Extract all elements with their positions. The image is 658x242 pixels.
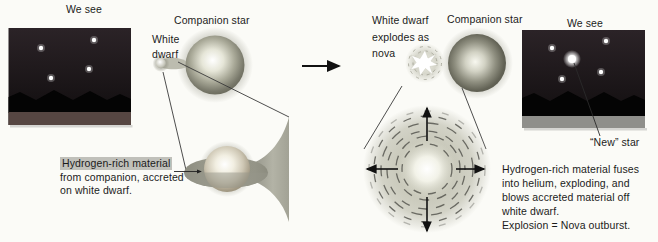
nova-caption-equation: Explosion = Nova outburst. — [502, 218, 654, 232]
we-see-label-left: We see — [53, 3, 115, 17]
companion-star-label-right: Companion star — [447, 13, 523, 27]
companion-star-label-left: Companion star — [174, 14, 250, 28]
caption-rest: from companion, accreted on white dwarf. — [60, 171, 184, 197]
we-see-label-right: We see — [558, 17, 612, 31]
new-star-label: “New” star — [590, 136, 639, 150]
nova-figure: We see Companion star White dwarf Hydrog… — [0, 0, 658, 242]
nova-explosion-zoom — [363, 105, 491, 233]
ground-strip — [522, 116, 645, 128]
ground-strip — [9, 112, 132, 125]
companion-star — [448, 34, 506, 92]
nova-caption-main: Hydrogen-rich material fuses into helium… — [502, 162, 654, 218]
white-dwarf-label-left: White dwarf — [152, 32, 200, 62]
right-sky-image — [522, 30, 647, 136]
accretion-caption: Hydrogen-rich material from companion, a… — [60, 157, 186, 198]
disk-front-edge — [184, 173, 268, 189]
accretion-zoom-view — [174, 117, 289, 222]
left-sky-image — [9, 28, 133, 128]
new-star — [568, 55, 576, 63]
caption-highlight: Hydrogen-rich material — [60, 157, 172, 170]
white-dwarf-explodes-label: White dwarf explodes as nova — [372, 12, 438, 62]
